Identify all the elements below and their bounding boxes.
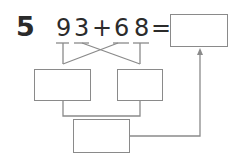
ones-sum-box[interactable] <box>117 69 163 101</box>
total-box[interactable] <box>73 119 130 153</box>
answer-box[interactable] <box>170 14 228 47</box>
arrow-head-icon <box>197 48 203 55</box>
tens-sum-box[interactable] <box>34 69 91 101</box>
